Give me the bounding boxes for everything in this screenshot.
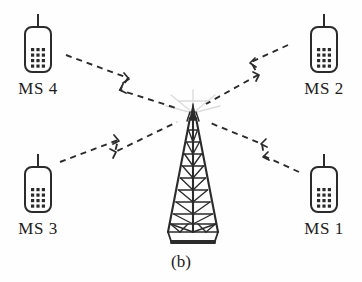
signal-path-ms2 xyxy=(206,45,288,104)
ms4-label: MS 4 xyxy=(2,80,74,97)
ms4-phone xyxy=(2,12,74,80)
base-station-tower-icon xyxy=(168,104,218,243)
mobile-phone-icon xyxy=(16,12,60,80)
ms2-phone xyxy=(288,12,360,80)
mobile-phone-icon xyxy=(302,12,346,80)
ms3-phone xyxy=(2,152,74,220)
mobile-phone-icon xyxy=(302,152,346,220)
signal-path-ms1 xyxy=(208,122,299,172)
mobile-station-ms1[interactable]: MS 1 xyxy=(288,152,360,237)
ms3-label: MS 3 xyxy=(2,220,74,237)
mobile-station-ms3[interactable]: MS 3 xyxy=(2,152,74,237)
signal-direction-arrowheads xyxy=(110,58,269,160)
mobile-phone-icon xyxy=(16,152,60,220)
ms1-label: MS 1 xyxy=(288,220,360,237)
mobile-station-ms4[interactable]: MS 4 xyxy=(2,12,74,97)
tower-base xyxy=(168,232,218,243)
signal-path-ms4 xyxy=(66,55,176,108)
figure-container: MS 4 MS 2 xyxy=(0,0,362,282)
ms2-label: MS 2 xyxy=(288,80,360,97)
mobile-station-ms2[interactable]: MS 2 xyxy=(288,12,360,97)
figure-caption: (b) xyxy=(0,252,362,272)
ms1-phone xyxy=(288,152,360,220)
